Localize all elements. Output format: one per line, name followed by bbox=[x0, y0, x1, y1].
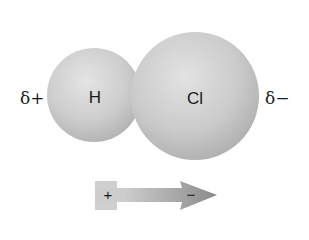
partial-positive-label: δ+ bbox=[20, 88, 44, 108]
partial-negative-label: δ− bbox=[265, 88, 289, 108]
chlorine-label: Cl bbox=[187, 89, 203, 108]
hydrogen-label: H bbox=[89, 88, 101, 107]
hydrogen-atom: H bbox=[47, 48, 141, 142]
dipole-arrow: + − bbox=[95, 181, 217, 210]
arrow-shaft-and-head bbox=[117, 181, 217, 210]
chlorine-atom: Cl bbox=[131, 32, 259, 160]
arrow-positive-sign: + bbox=[104, 186, 113, 203]
arrow-negative-sign: − bbox=[187, 186, 196, 203]
hcl-dipole-diagram: H Cl δ+ δ− + − bbox=[0, 0, 309, 240]
